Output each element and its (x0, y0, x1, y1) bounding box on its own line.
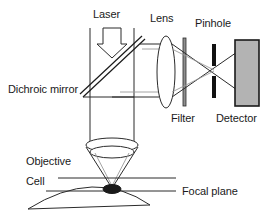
pinhole-bar-upper (212, 44, 216, 66)
dichroic-mirror-back-line (83, 39, 145, 97)
optical-diagram: Laser Dichroic mirror Objective (0, 0, 267, 214)
cell-specimen (28, 187, 150, 209)
cell-base-line (28, 205, 150, 209)
focal-spot (103, 185, 121, 194)
detector-body (235, 40, 259, 106)
lens-label: Lens (150, 12, 174, 24)
pinhole-label: Pinhole (195, 17, 231, 29)
dichroic-mirror-label: Dichroic mirror (8, 83, 78, 95)
detector-label: Detector (216, 112, 257, 124)
laser-label: Laser (93, 8, 120, 20)
detector (235, 40, 259, 106)
cell-label: Cell (26, 175, 45, 187)
dichroic-mirror-front-line (80, 36, 142, 94)
converging-ray-faint-a (172, 49, 214, 70)
emission-filter (183, 38, 186, 106)
focal-plane-label: Focal plane (182, 185, 238, 197)
filter-bar (183, 38, 186, 106)
filter-label: Filter (171, 112, 195, 124)
objective-beam-group (83, 92, 134, 145)
converging-ray-a (172, 44, 240, 92)
figure-canvas: Laser Dichroic mirror Objective (0, 0, 267, 214)
converging-ray-faint-b (172, 71, 214, 92)
converging-rays-group (172, 44, 240, 97)
objective-label: Objective (26, 155, 71, 167)
excitation-beam-group (90, 28, 134, 92)
pinhole-bar-lower (212, 76, 216, 98)
converging-ray-b (172, 50, 240, 97)
